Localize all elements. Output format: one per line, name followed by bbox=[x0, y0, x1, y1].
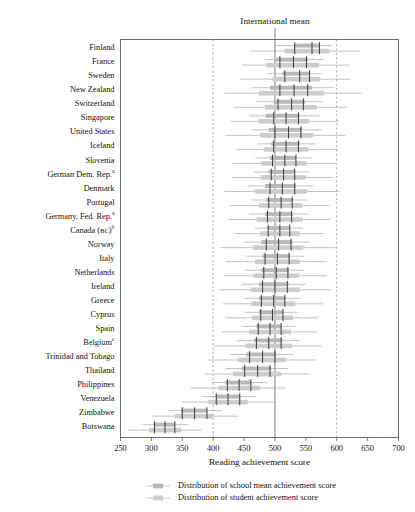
x-tick-label-600: 600 bbox=[330, 444, 343, 453]
legend-swatch-1 bbox=[153, 496, 163, 501]
x-tick-label-500: 500 bbox=[269, 444, 282, 453]
category-label-denmark: Denmark bbox=[84, 183, 116, 192]
category-label-portugal: Portugal bbox=[86, 198, 115, 207]
table-row bbox=[234, 98, 346, 110]
x-tick-label-350: 350 bbox=[176, 444, 189, 453]
x-tick-label-650: 650 bbox=[361, 444, 374, 453]
table-row bbox=[222, 323, 317, 335]
table-row bbox=[205, 365, 310, 377]
category-label-iceland: Iceland bbox=[90, 141, 115, 150]
school-box bbox=[247, 352, 277, 356]
table-row bbox=[226, 253, 327, 265]
student-box bbox=[255, 189, 307, 194]
school-box bbox=[259, 310, 283, 314]
table-row bbox=[242, 56, 349, 68]
table-row bbox=[230, 197, 329, 209]
category-label-greece: Greece bbox=[91, 296, 115, 305]
table-row bbox=[208, 351, 315, 363]
table-row bbox=[233, 155, 336, 167]
table-row bbox=[221, 239, 336, 251]
x-axis: 250300350400450500550600650700Reading ac… bbox=[114, 438, 405, 467]
table-row bbox=[151, 407, 237, 419]
student-box bbox=[260, 133, 313, 138]
school-box bbox=[269, 128, 302, 132]
category-label-sweden: Sweden bbox=[88, 71, 115, 80]
reading-achievement-chart: International meanFinlandFranceSwedenNew… bbox=[0, 0, 415, 512]
school-box bbox=[282, 72, 309, 76]
x-tick-label-300: 300 bbox=[145, 444, 158, 453]
category-label-thailand: Thailand bbox=[85, 366, 115, 375]
table-row bbox=[234, 225, 324, 237]
school-box bbox=[256, 324, 281, 328]
category-label-norway: Norway bbox=[88, 240, 116, 249]
legend: Distribution of school mean achievement … bbox=[146, 481, 336, 502]
school-box bbox=[259, 282, 289, 286]
category-label-german-dem-rep: German Dem. Rep.a bbox=[47, 168, 115, 178]
x-axis-title: Reading achievement score bbox=[209, 457, 310, 467]
chart-canvas: International meanFinlandFranceSwedenNew… bbox=[0, 0, 415, 512]
category-label-spain: Spain bbox=[96, 324, 116, 333]
category-label-ireland: Ireland bbox=[91, 282, 115, 291]
category-label-netherlands: Netherlands bbox=[74, 268, 114, 277]
student-box bbox=[259, 203, 302, 208]
plot-frame bbox=[121, 40, 399, 438]
school-box bbox=[242, 366, 272, 370]
category-label-singapore: Singapore bbox=[81, 113, 115, 122]
reference-lines bbox=[213, 40, 337, 438]
student-box bbox=[261, 161, 307, 166]
student-box bbox=[266, 63, 319, 68]
category-label-cyprus: Cyprus bbox=[91, 310, 115, 319]
student-box bbox=[259, 91, 324, 96]
table-row bbox=[224, 84, 361, 96]
table-row bbox=[224, 183, 339, 195]
school-box bbox=[181, 409, 207, 413]
school-box bbox=[271, 142, 299, 146]
x-tick-label-250: 250 bbox=[114, 444, 127, 453]
school-box bbox=[269, 170, 295, 174]
category-label-new-zealand: New Zealand bbox=[70, 85, 115, 94]
table-row bbox=[191, 379, 286, 391]
x-tick-label-700: 700 bbox=[392, 444, 405, 453]
category-label-philippines: Philippines bbox=[77, 380, 114, 389]
student-box bbox=[285, 49, 329, 54]
school-box bbox=[268, 226, 290, 230]
school-box bbox=[270, 86, 312, 90]
category-label-switzerland: Switzerland bbox=[75, 99, 115, 108]
school-box bbox=[270, 156, 296, 160]
international-mean-label: International mean bbox=[240, 16, 310, 26]
student-box bbox=[253, 245, 304, 250]
student-box bbox=[238, 358, 286, 363]
table-row bbox=[219, 281, 330, 293]
international-mean-annotation: International mean bbox=[240, 16, 310, 40]
box-rows bbox=[128, 42, 362, 433]
table-row bbox=[250, 42, 360, 54]
table-row bbox=[128, 421, 202, 433]
student-box bbox=[272, 77, 320, 82]
table-row bbox=[182, 393, 273, 405]
category-label-germany-fed-rep: Germany, Fed. Rep.a bbox=[45, 210, 115, 220]
table-row bbox=[237, 140, 338, 152]
category-label-trinidad-and-tobago: Trinidad and Tobago bbox=[45, 352, 114, 361]
school-box bbox=[265, 212, 292, 216]
school-box bbox=[259, 296, 286, 300]
category-label-zimbabwe: Zimbabwe bbox=[79, 408, 115, 417]
table-row bbox=[228, 211, 331, 223]
x-tick-label-550: 550 bbox=[300, 444, 313, 453]
school-box bbox=[263, 254, 290, 258]
category-label-canada-bc: Canada (BC)b bbox=[70, 224, 114, 234]
student-box bbox=[233, 372, 281, 377]
student-box bbox=[265, 105, 317, 110]
student-box bbox=[259, 119, 309, 124]
category-label-italy: Italy bbox=[99, 254, 115, 263]
category-label-slovenia: Slovenia bbox=[85, 155, 114, 164]
category-label-united-states: United States bbox=[70, 127, 114, 136]
school-box bbox=[295, 44, 320, 48]
school-box bbox=[266, 114, 300, 118]
school-box bbox=[154, 423, 175, 427]
table-row bbox=[223, 295, 323, 307]
table-row bbox=[230, 112, 339, 124]
table-row bbox=[226, 126, 346, 138]
category-label-botswana: Botswana bbox=[82, 422, 115, 431]
legend-label-1: Distribution of student achievement scor… bbox=[178, 493, 318, 502]
school-box bbox=[261, 268, 288, 272]
